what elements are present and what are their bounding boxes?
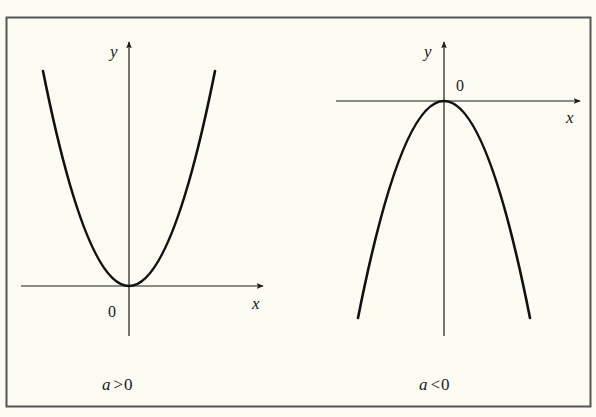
caption-op: <	[431, 375, 441, 394]
figure: y x 0 a>0 y x 0 a<0	[0, 0, 596, 417]
caption-op: >	[114, 375, 124, 394]
panel-left: y x 0 a>0	[21, 42, 263, 394]
y-axis-label: y	[108, 42, 118, 61]
caption-val: 0	[441, 375, 450, 394]
origin-label: 0	[456, 77, 464, 94]
origin-label: 0	[108, 303, 116, 320]
caption-a-negative: a<0	[419, 375, 450, 394]
figure-frame	[7, 18, 591, 407]
panel-right: y x 0 a<0	[336, 42, 580, 394]
x-axis-label: x	[565, 108, 574, 127]
caption-a-positive: a>0	[102, 375, 133, 394]
caption-var: a	[102, 375, 111, 394]
x-axis-label: x	[251, 294, 260, 313]
caption-var: a	[419, 375, 428, 394]
y-axis-label: y	[422, 42, 432, 61]
caption-val: 0	[124, 375, 133, 394]
